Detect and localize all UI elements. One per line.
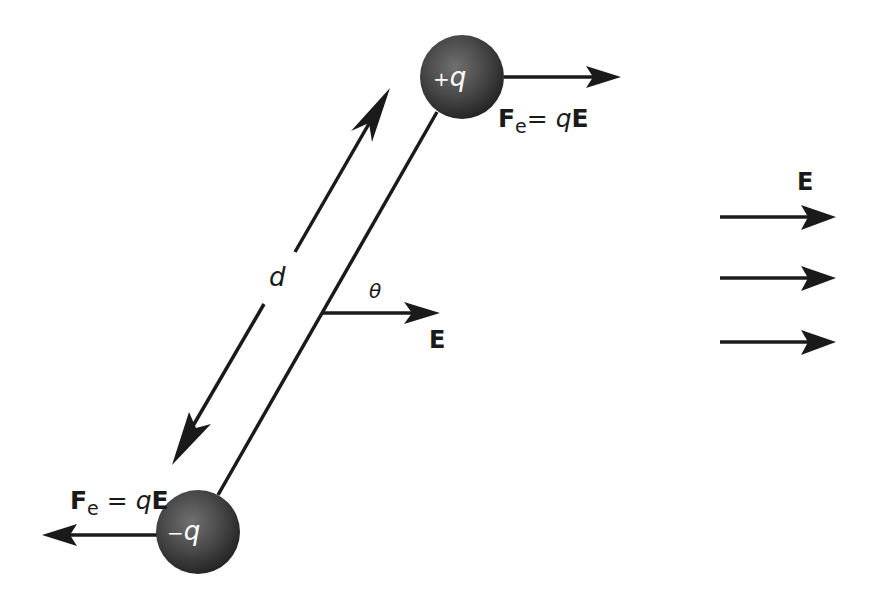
charge-symbol: q — [184, 516, 201, 546]
field-symbol: E — [152, 486, 169, 515]
field-symbol: E — [572, 104, 589, 133]
arrowhead-icon — [351, 88, 390, 142]
local-field-label: E — [429, 328, 445, 352]
force-symbol: F — [498, 104, 515, 133]
dipole-diagram: +q −q Fe= qE Fe = qE d θ E E — [0, 0, 871, 595]
uniform-field-arrows — [720, 205, 836, 355]
equals-sign: = — [107, 486, 128, 515]
force-subscript: e — [87, 497, 99, 519]
angle-label: θ — [369, 281, 381, 301]
arrowhead-icon — [172, 412, 211, 465]
dipole-rod — [218, 112, 437, 495]
field-arrow-1 — [720, 205, 836, 230]
separation-arrow-up — [295, 88, 390, 252]
equals-sign: = — [527, 104, 548, 133]
local-field-arrow — [322, 302, 440, 324]
field-arrow-3 — [720, 330, 836, 355]
uniform-field-label: E — [797, 170, 813, 194]
charge-symbol: q — [136, 486, 152, 515]
force-label-positive: Fe= qE — [498, 106, 589, 136]
charge-symbol: q — [556, 104, 572, 133]
force-symbol: F — [70, 486, 87, 515]
positive-sign: + — [433, 67, 450, 91]
field-arrow-2 — [720, 266, 836, 291]
separation-label: d — [269, 264, 286, 290]
positive-charge-label: +q — [433, 64, 466, 90]
force-arrow-positive — [504, 66, 621, 88]
force-label-negative: Fe = qE — [70, 488, 169, 518]
force-subscript: e — [515, 115, 527, 137]
negative-charge-label: −q — [167, 518, 200, 544]
charge-symbol: q — [450, 62, 467, 92]
negative-sign: − — [167, 521, 184, 545]
force-arrow-negative — [42, 524, 158, 546]
